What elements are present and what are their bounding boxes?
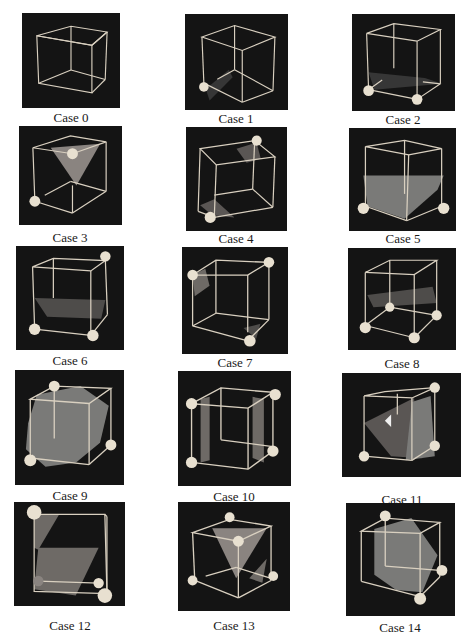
vertex-sphere-icon	[430, 441, 440, 451]
vertex-sphere-icon	[199, 82, 209, 92]
case-7-panel	[182, 247, 288, 354]
vertex-sphere-icon	[186, 457, 197, 468]
case-5-panel	[349, 128, 456, 231]
case-2-caption: Case 2	[343, 113, 463, 127]
cube-wireframe-icon	[182, 247, 288, 354]
vertex-sphere-icon	[205, 212, 216, 223]
vertex-sphere-icon	[432, 310, 442, 320]
vertex-sphere-icon	[93, 578, 103, 588]
vertex-sphere-icon	[412, 94, 423, 105]
cube-wireframe-icon	[19, 126, 122, 225]
case-1-panel	[185, 14, 288, 110]
vertex-sphere-icon	[33, 576, 43, 586]
case-12-panel	[14, 502, 125, 606]
case-2-panel	[352, 14, 455, 111]
case-3-caption: Case 3	[10, 231, 130, 245]
vertex-sphere-icon	[430, 382, 440, 392]
vertex-sphere-icon	[29, 323, 40, 334]
case-14-panel	[346, 503, 455, 616]
vertex-sphere-icon	[29, 196, 40, 207]
case-1-caption: Case 1	[176, 112, 296, 126]
cube-wireframe-icon	[185, 14, 288, 110]
vertex-sphere-icon	[225, 512, 235, 522]
vertex-sphere-icon	[233, 536, 244, 547]
case-8-panel	[348, 248, 456, 350]
case-4-panel	[186, 127, 287, 231]
vertex-sphere-icon	[267, 445, 278, 456]
case-11-panel	[342, 373, 461, 477]
cube-wireframe-icon	[349, 128, 456, 231]
vertex-sphere-icon	[360, 322, 371, 333]
cube-wireframe-icon	[22, 13, 120, 108]
case-9-panel	[15, 370, 124, 485]
vertex-sphere-icon	[380, 510, 391, 521]
vertex-sphere-icon	[24, 454, 36, 466]
case-8-caption: Case 8	[342, 357, 462, 371]
case-13-caption: Case 13	[174, 619, 294, 633]
vertex-sphere-icon	[270, 389, 281, 400]
case-6-caption: Case 6	[10, 354, 130, 368]
case-4-caption: Case 4	[176, 232, 296, 246]
case-0-caption: Case 0	[11, 111, 131, 125]
case-3-panel	[19, 126, 122, 225]
cube-wireframe-icon	[178, 371, 291, 486]
vertex-sphere-icon	[188, 576, 198, 586]
vertex-sphere-icon	[363, 85, 374, 96]
vertex-sphere-icon	[409, 332, 420, 343]
cube-wireframe-icon	[352, 14, 455, 111]
cube-wireframe-icon	[342, 373, 461, 477]
vertex-sphere-icon	[264, 257, 275, 268]
vertex-sphere-icon	[105, 439, 116, 450]
vertex-sphere-icon	[187, 270, 198, 281]
vertex-sphere-icon	[436, 565, 447, 576]
cube-wireframe-icon	[346, 503, 455, 616]
cube-wireframe-icon	[16, 246, 124, 350]
vertex-sphere-icon	[98, 588, 113, 603]
case-14-caption: Case 14	[340, 621, 460, 635]
case-13-panel	[178, 502, 290, 611]
vertex-sphere-icon	[67, 148, 78, 159]
case-10-panel	[178, 371, 291, 486]
vertex-sphere-icon	[244, 335, 256, 347]
vertex-sphere-icon	[100, 251, 110, 261]
vertex-sphere-icon	[27, 505, 42, 520]
cube-wireframe-icon	[186, 127, 287, 231]
vertex-sphere-icon	[414, 593, 426, 605]
vertex-sphere-icon	[438, 203, 449, 214]
cube-wireframe-icon	[178, 502, 290, 611]
vertex-sphere-icon	[268, 571, 278, 581]
case-7-caption: Case 7	[175, 356, 295, 370]
cube-wireframe-icon	[348, 248, 456, 350]
vertex-sphere-icon	[385, 303, 394, 312]
case-9-caption: Case 9	[10, 489, 130, 503]
case-5-caption: Case 5	[343, 232, 463, 246]
cube-wireframe-icon	[14, 502, 125, 606]
case-12-caption: Case 12	[10, 619, 130, 633]
vertex-sphere-icon	[252, 136, 262, 146]
vertex-sphere-icon	[87, 330, 98, 341]
case-0-panel	[22, 13, 120, 108]
case-6-panel	[16, 246, 124, 350]
vertex-sphere-icon	[186, 398, 197, 409]
vertex-sphere-icon	[358, 203, 369, 214]
vertex-sphere-icon	[359, 451, 369, 461]
cube-wireframe-icon	[15, 370, 124, 485]
vertex-sphere-icon	[49, 381, 60, 392]
